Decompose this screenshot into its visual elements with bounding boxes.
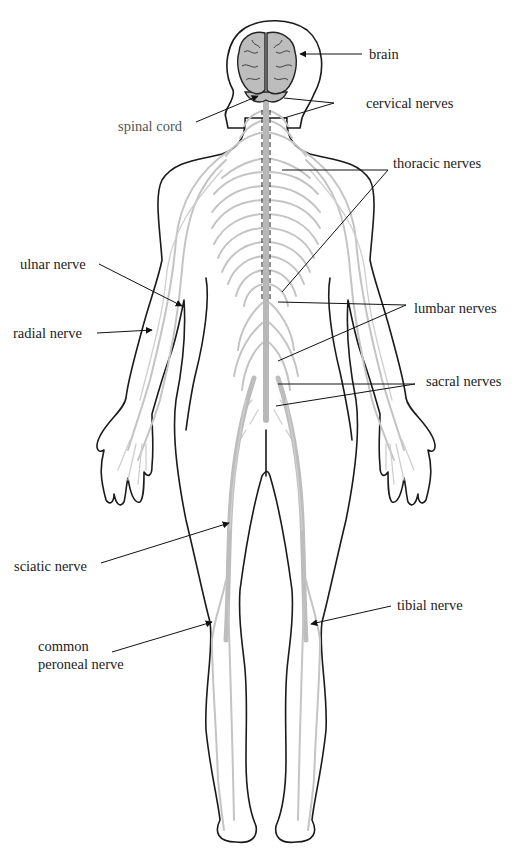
common-peroneal-leader <box>112 622 212 652</box>
label-common-peroneal-line1: common <box>38 638 89 654</box>
label-radial-nerve: radial nerve <box>13 325 82 341</box>
label-cervical-nerves: cervical nerves <box>366 95 454 111</box>
label-spinal-cord: spinal cord <box>118 118 183 134</box>
label-thoracic-nerves: thoracic nerves <box>393 155 482 171</box>
label-brain: brain <box>369 46 400 62</box>
spinal-cord <box>262 100 270 420</box>
label-tibial-nerve: tibial nerve <box>397 597 463 613</box>
brain <box>238 32 297 102</box>
nervous-system-diagram: brain cervical nerves spinal cord thorac… <box>0 0 527 859</box>
label-lumbar-nerves: lumbar nerves <box>414 300 497 316</box>
label-ulnar-nerve: ulnar nerve <box>20 256 86 272</box>
label-sciatic-nerve: sciatic nerve <box>14 558 87 574</box>
label-common-peroneal-line2: peroneal nerve <box>38 656 124 672</box>
label-sacral-nerves: sacral nerves <box>426 373 502 389</box>
